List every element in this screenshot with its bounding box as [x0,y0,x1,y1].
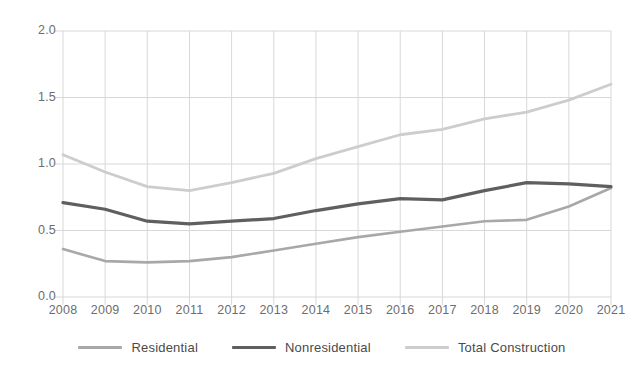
y-tick-label: 1.5 [22,90,56,104]
series-line-nonresidential [63,183,611,224]
x-tick-label: 2018 [464,303,506,317]
x-tick-label: 2008 [42,303,84,317]
y-tick-label: 0.0 [22,289,56,303]
x-gridlines [63,31,611,305]
y-gridlines [55,31,611,297]
x-tick-label: 2010 [126,303,168,317]
series-lines [63,84,611,262]
y-tick-label: 2.0 [22,23,56,37]
x-tick-label: 2017 [421,303,463,317]
x-tick-label: 2013 [253,303,295,317]
series-line-residential [63,188,611,262]
y-tick-label: 0.5 [22,223,56,237]
legend-label: Total Construction [458,340,566,355]
x-tick-label: 2011 [168,303,210,317]
legend-swatch-icon [232,346,276,349]
chart-legend: ResidentialNonresidentialTotal Construct… [0,332,644,362]
x-tick-label: 2020 [548,303,590,317]
line-chart: 0.00.51.01.52.0 200820092010201120122013… [0,0,644,373]
plot-area [0,0,644,373]
legend-swatch-icon [78,346,122,349]
x-tick-label: 2014 [295,303,337,317]
legend-item-total-construction[interactable]: Total Construction [405,340,566,355]
x-tick-label: 2012 [211,303,253,317]
x-tick-label: 2021 [590,303,632,317]
x-tick-label: 2019 [506,303,548,317]
y-tick-label: 1.0 [22,156,56,170]
series-line-total-construction [63,84,611,190]
legend-item-nonresidential[interactable]: Nonresidential [232,340,371,355]
x-tick-label: 2016 [379,303,421,317]
legend-label: Nonresidential [285,340,371,355]
x-tick-label: 2015 [337,303,379,317]
legend-swatch-icon [405,346,449,349]
x-tick-label: 2009 [84,303,126,317]
legend-label: Residential [131,340,198,355]
legend-item-residential[interactable]: Residential [78,340,198,355]
